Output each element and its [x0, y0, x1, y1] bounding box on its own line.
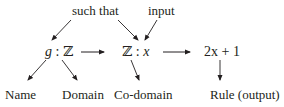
- function-name: g: [45, 44, 52, 59]
- label-such-that: such that: [72, 4, 119, 18]
- function-notation-diagram: such that input g : ℤ ℤ : x 2x + 1 Name …: [0, 0, 284, 107]
- domain-set: ℤ: [63, 44, 73, 59]
- colon: :: [56, 44, 60, 59]
- input-variable: x: [143, 44, 149, 59]
- arrow-domain-to-label: [62, 60, 77, 80]
- label-name: Name: [5, 88, 36, 102]
- arrow-input-to-x: [145, 20, 157, 40]
- label-input: input: [148, 4, 175, 18]
- colon: :: [136, 44, 140, 59]
- rule-expression: 2x + 1: [204, 44, 240, 60]
- arrow-such-that-to-codomain: [118, 20, 138, 40]
- function-signature: g : ℤ: [45, 44, 73, 60]
- codomain-set: ℤ: [122, 44, 132, 59]
- arrow-such-that-to-g: [52, 20, 71, 40]
- label-rule-output: Rule (output): [210, 88, 280, 102]
- arrow-g-to-name: [28, 60, 46, 80]
- codomain-expression: ℤ : x: [122, 44, 149, 60]
- arrow-codomain-to-label: [131, 60, 139, 80]
- label-codomain: Co-domain: [114, 88, 173, 102]
- label-domain: Domain: [62, 88, 104, 102]
